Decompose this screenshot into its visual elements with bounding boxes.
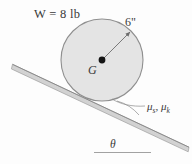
mu-kinetic-subscript: k — [166, 106, 169, 115]
weight-label: W = 8 lb — [34, 8, 80, 21]
inclined-plane-disk-diagram: W = 8 lb 6" G μs, μk θ — [0, 0, 192, 164]
center-of-gravity-label: G — [88, 64, 97, 76]
radius-label: 6" — [125, 16, 136, 28]
friction-leader-line — [112, 99, 145, 106]
diagram-canvas — [0, 0, 192, 164]
friction-coefficients-label: μs, μk — [147, 101, 170, 115]
incline-angle-label: θ — [110, 139, 116, 151]
center-of-gravity-dot — [99, 57, 106, 64]
